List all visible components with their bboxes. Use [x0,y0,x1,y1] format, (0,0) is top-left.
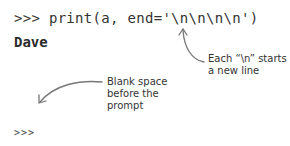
curved-arrow-icon [179,29,204,62]
curved-arrow-icon [39,82,102,103]
annotation-arrows [0,0,290,146]
